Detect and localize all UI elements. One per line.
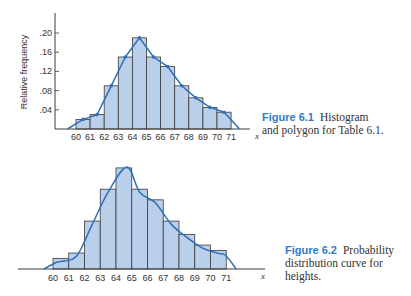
x-tick-label: 62	[99, 132, 109, 142]
histogram-bar	[217, 112, 231, 129]
polygon-point	[222, 110, 226, 114]
x-tick-label: 66	[156, 132, 166, 142]
x-tick-label: 61	[64, 273, 74, 283]
y-tick-label: .12	[39, 66, 52, 76]
histogram-bar	[175, 86, 189, 129]
caption-text: and polygon for Table 6.1.	[262, 124, 384, 137]
polygon-point	[81, 118, 85, 122]
x-tick-label: 64	[127, 132, 137, 142]
polygon-point	[138, 36, 142, 40]
figure-6-1-caption: Figure 6.1Histogram and polygon for Tabl…	[262, 111, 384, 137]
x-tick-label: 63	[95, 273, 105, 283]
x-tick-label: 63	[113, 132, 123, 142]
figure-label: Figure 6.1	[262, 111, 314, 123]
x-tick-label: 66	[142, 273, 152, 283]
histogram-bar	[85, 221, 101, 269]
histogram-bar	[147, 57, 161, 129]
histogram-bar	[161, 67, 175, 129]
x-tick-label: 60	[48, 273, 58, 283]
histogram-bar	[203, 107, 217, 129]
histogram-bar	[132, 189, 148, 269]
histogram-bar	[116, 168, 132, 269]
histogram-bar	[104, 86, 118, 129]
histogram-bar	[53, 258, 69, 269]
y-tick-label: .08	[39, 86, 52, 96]
x-tick-label: 69	[190, 273, 200, 283]
caption-text: Histogram	[320, 111, 369, 123]
x-tick-label: 70	[205, 273, 215, 283]
histogram-polygon-chart: .04.08.12.16.20 606162636465666768697071…	[19, 13, 259, 142]
probability-curve-chart: 606162636465666768697071 x	[18, 167, 265, 283]
histogram-bar	[163, 221, 179, 269]
polygon-point	[109, 84, 113, 88]
x-tick-label: 60	[71, 132, 81, 142]
polygon-point	[152, 55, 156, 59]
x-tick-label: 61	[85, 132, 95, 142]
x-tick-label: 68	[184, 132, 194, 142]
y-tick-label: .16	[39, 47, 52, 57]
histogram-bar	[189, 98, 203, 129]
x-tick-label: 64	[111, 273, 121, 283]
x-tick-label: 65	[127, 273, 137, 283]
caption-text: distribution curve for	[285, 257, 394, 270]
caption-text: Probability	[343, 244, 394, 256]
x-tick-label: 70	[212, 132, 222, 142]
x-tick-label: 68	[174, 273, 184, 283]
x-tick-label: 62	[79, 273, 89, 283]
polygon-point	[194, 96, 198, 100]
x-axis-variable: x	[260, 271, 265, 281]
x-tick-label: 65	[141, 132, 151, 142]
figure-label: Figure 6.2	[285, 244, 337, 256]
polygon-point	[124, 55, 128, 59]
x-tick-labels: 606162636465666768697071	[71, 132, 236, 142]
y-ticks: .04.08.12.16.20	[39, 28, 59, 115]
y-tick-label: .20	[39, 28, 52, 38]
polygon-point	[180, 84, 184, 88]
figure-6-2-caption: Figure 6.2Probability distribution curve…	[285, 244, 394, 283]
x-tick-label: 67	[170, 132, 180, 142]
polygon-point	[166, 65, 170, 69]
x-tick-label: 71	[226, 132, 236, 142]
y-axis-title: Relative frequency	[19, 34, 29, 109]
y-tick-label: .04	[39, 105, 52, 115]
x-tick-label: 67	[158, 273, 168, 283]
caption-text: heights.	[285, 270, 394, 283]
x-tick-label: 69	[198, 132, 208, 142]
polygon-point	[95, 113, 99, 117]
polygon-point	[208, 106, 212, 110]
histogram-bar	[132, 38, 146, 129]
x-tick-labels: 606162636465666768697071	[48, 273, 231, 283]
histogram-bars	[76, 38, 231, 129]
x-tick-label: 71	[221, 273, 231, 283]
x-axis-variable: x	[254, 131, 259, 141]
histogram-bar	[179, 234, 195, 269]
